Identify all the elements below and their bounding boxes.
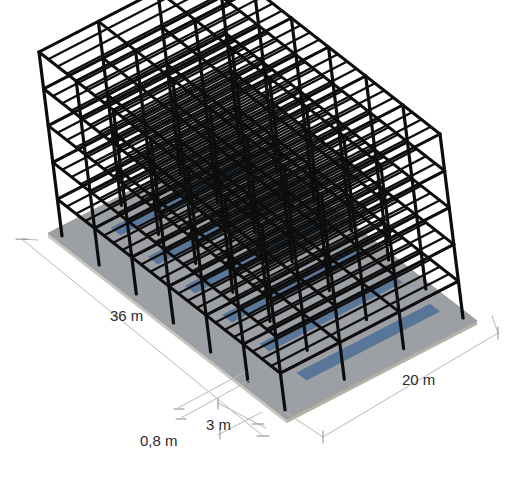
steel-frame-drawing [0, 0, 528, 479]
dimension-bay-label: 3 m [206, 416, 231, 433]
dimension-length-label: 36 m [110, 307, 143, 324]
dimension-width-label: 20 m [402, 371, 435, 388]
structure-diagram: 36 m 20 m 3 m 0,8 m [0, 0, 528, 479]
dimension-offset-label: 0,8 m [140, 432, 178, 449]
